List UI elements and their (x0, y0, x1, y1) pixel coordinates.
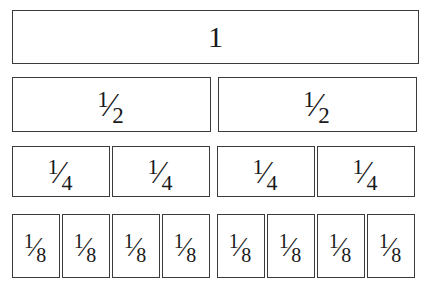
fraction-denominator: 8 (86, 244, 96, 266)
fraction-denominator: 8 (391, 244, 401, 266)
fraction-label-fourth-2: 1⁄4 (147, 156, 174, 187)
fraction-cell-eighth-1: 1⁄8 (12, 214, 60, 278)
fraction-cell-fourth-4: 1⁄4 (317, 146, 415, 197)
fraction-label-eighth-6: 1⁄8 (279, 232, 304, 260)
fraction-row-eighths: 1⁄8 1⁄8 1⁄8 1⁄8 1⁄8 1⁄8 (12, 214, 419, 278)
fraction-label-half-2: 1⁄2 (303, 88, 332, 121)
fraction-cell-eighth-6: 1⁄8 (267, 214, 315, 278)
fraction-cell-half-1: 1⁄2 (12, 77, 211, 132)
fraction-cell-fourth-3: 1⁄4 (217, 146, 315, 197)
fraction-wall-diagram: 1 1⁄2 1⁄2 1⁄4 1⁄4 1⁄4 (0, 0, 431, 290)
fraction-label-eighth-2: 1⁄8 (74, 232, 99, 260)
fraction-label-eighth-7: 1⁄8 (329, 232, 354, 260)
fraction-cell-half-2: 1⁄2 (218, 77, 417, 132)
fraction-label-eighth-3: 1⁄8 (124, 232, 149, 260)
fraction-denominator: 2 (112, 103, 124, 128)
fraction-row-whole: 1 (12, 10, 419, 64)
fraction-cell-eighth-2: 1⁄8 (62, 214, 110, 278)
fraction-cell-fourth-1: 1⁄4 (12, 146, 110, 197)
fraction-denominator: 8 (186, 244, 196, 266)
fraction-denominator: 8 (291, 244, 301, 266)
fraction-denominator: 4 (62, 170, 73, 195)
fraction-label-eighth-4: 1⁄8 (174, 232, 199, 260)
fraction-cell-eighth-7: 1⁄8 (317, 214, 365, 278)
fraction-denominator: 8 (36, 244, 46, 266)
fraction-denominator: 8 (241, 244, 251, 266)
fraction-cell-eighth-8: 1⁄8 (367, 214, 415, 278)
fraction-cell-eighth-5: 1⁄8 (217, 214, 265, 278)
fraction-cell-whole: 1 (12, 10, 419, 64)
fraction-label-eighth-8: 1⁄8 (379, 232, 404, 260)
fraction-label-whole: 1 (208, 22, 223, 52)
fraction-numerator: 1 (303, 87, 315, 112)
fraction-cell-eighth-3: 1⁄8 (112, 214, 160, 278)
fraction-row-halves: 1⁄2 1⁄2 (12, 77, 419, 132)
fraction-denominator: 8 (136, 244, 146, 266)
fraction-denominator: 4 (162, 170, 173, 195)
fraction-denominator: 8 (341, 244, 351, 266)
fraction-cell-fourth-2: 1⁄4 (112, 146, 210, 197)
fraction-label-fourth-4: 1⁄4 (352, 156, 379, 187)
fraction-numerator: 1 (97, 87, 109, 112)
fraction-label-fourth-3: 1⁄4 (252, 156, 279, 187)
fraction-row-fourths: 1⁄4 1⁄4 1⁄4 1⁄4 (12, 146, 419, 197)
fraction-label-eighth-1: 1⁄8 (24, 232, 49, 260)
fraction-label-eighth-5: 1⁄8 (229, 232, 254, 260)
fraction-label-fourth-1: 1⁄4 (47, 156, 74, 187)
fraction-denominator: 2 (318, 103, 330, 128)
fraction-label-half-1: 1⁄2 (97, 88, 126, 121)
fraction-denominator: 4 (267, 170, 278, 195)
fraction-cell-eighth-4: 1⁄8 (162, 214, 210, 278)
fraction-denominator: 4 (367, 170, 378, 195)
